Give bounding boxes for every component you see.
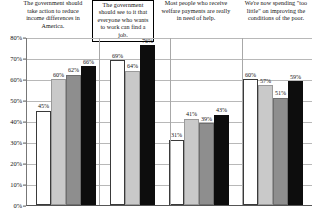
- y-axis-tick-label: 0%: [13, 203, 22, 209]
- bar: 76%: [140, 45, 155, 205]
- plot-area: 80%70%60%50%40%30%20%10%0% 45%60%62%66%6…: [0, 38, 314, 206]
- bar-value-label: 60%: [245, 72, 256, 78]
- y-axis-tick-label: 20%: [10, 161, 22, 167]
- bar: 60%: [243, 79, 258, 205]
- bar: 69%: [110, 60, 125, 205]
- group-caption-2: Most people who receive welfare payments…: [160, 0, 232, 23]
- grid-area: 45%60%62%66%69%64%76%31%41%39%43%60%57%5…: [26, 38, 312, 206]
- bar-value-label: 41%: [186, 111, 197, 117]
- bar: 45%: [36, 111, 51, 206]
- group-separator: [242, 38, 243, 205]
- y-axis-tick-label: 30%: [10, 140, 22, 146]
- bar-group: 69%64%76%: [110, 38, 155, 205]
- bar: 62%: [66, 75, 81, 205]
- y-axis-tick-label: 40%: [10, 119, 22, 125]
- bar: 39%: [199, 123, 214, 205]
- group-separator: [170, 38, 171, 205]
- y-axis-tick-label: 10%: [10, 182, 22, 188]
- bar: 43%: [214, 115, 229, 205]
- bar-value-label: 69%: [112, 53, 123, 59]
- bar: 66%: [81, 66, 96, 205]
- group-caption-1: The government should see to it that eve…: [92, 0, 154, 42]
- y-axis-tick-label: 70%: [10, 56, 22, 62]
- bar-group: 60%57%51%59%: [243, 38, 303, 205]
- bar-value-label: 51%: [275, 90, 286, 96]
- y-axis-tick-label: 60%: [10, 77, 22, 83]
- bar: 51%: [273, 98, 288, 205]
- bar-value-label: 59%: [290, 74, 301, 80]
- bar-value-label: 45%: [38, 103, 49, 109]
- group-caption-0: The government should take action to red…: [18, 0, 88, 30]
- bar-value-label: 64%: [127, 63, 138, 69]
- bar-group: 31%41%39%43%: [169, 38, 229, 205]
- bar-value-label: 76%: [142, 38, 153, 44]
- group-caption-3: We're now spending "too little" on impro…: [238, 0, 314, 23]
- bar: 64%: [125, 71, 140, 205]
- bar-chart: The government should take action to red…: [0, 0, 314, 218]
- bar: 60%: [51, 79, 66, 205]
- group-captions: The government should take action to red…: [0, 0, 314, 38]
- bar-value-label: 43%: [216, 107, 227, 113]
- bar-value-label: 62%: [68, 67, 79, 73]
- bar-value-label: 66%: [83, 59, 94, 65]
- bar: 57%: [258, 85, 273, 205]
- bar-value-label: 39%: [201, 116, 212, 122]
- bar-value-label: 57%: [260, 78, 271, 84]
- bar-value-label: 31%: [171, 132, 182, 138]
- group-separator: [99, 38, 100, 205]
- y-axis: 80%70%60%50%40%30%20%10%0%: [0, 38, 26, 206]
- bar: 31%: [169, 140, 184, 205]
- bar: 41%: [184, 119, 199, 205]
- bar-value-label: 60%: [53, 72, 64, 78]
- y-axis-tick-label: 80%: [10, 35, 22, 41]
- bar-group: 45%60%62%66%: [36, 38, 96, 205]
- y-axis-tick-label: 50%: [10, 98, 22, 104]
- bar: 59%: [288, 81, 303, 205]
